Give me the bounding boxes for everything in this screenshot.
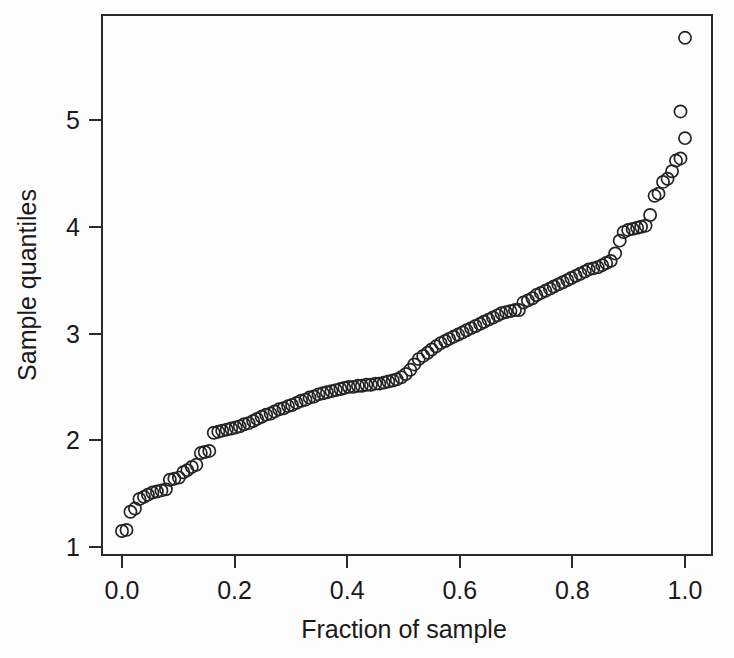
- y-tick-label: 5: [66, 106, 80, 134]
- y-tick-label: 1: [66, 533, 80, 561]
- x-tick-label: 1.0: [668, 576, 703, 604]
- y-tick-label: 3: [66, 320, 80, 348]
- plot-box-border: [102, 15, 712, 555]
- data-point-marker: [679, 32, 691, 44]
- data-points-layer: [116, 32, 691, 537]
- y-tick-label: 2: [66, 426, 80, 454]
- x-axis-title: Fraction of sample: [301, 615, 507, 643]
- y-tick-label: 4: [66, 213, 80, 241]
- data-point-marker: [652, 188, 664, 200]
- data-point-marker: [674, 105, 686, 117]
- x-tick-label: 0.2: [217, 576, 252, 604]
- data-point-marker: [190, 459, 202, 471]
- x-axis-ticks: 0.00.20.40.60.81.0: [105, 555, 703, 604]
- x-tick-label: 0.6: [442, 576, 477, 604]
- data-point-marker: [679, 132, 691, 144]
- plot-canvas: 0.00.20.40.60.81.0 12345 Fraction of sam…: [0, 0, 734, 658]
- plot-frame: [102, 15, 712, 555]
- x-tick-label: 0.4: [330, 576, 365, 604]
- quantile-plot-figure: 0.00.20.40.60.81.0 12345 Fraction of sam…: [0, 0, 734, 658]
- y-axis-title: Sample quantiles: [13, 189, 41, 381]
- data-point-marker: [644, 209, 656, 221]
- data-point-marker: [674, 152, 686, 164]
- x-tick-label: 0.0: [105, 576, 140, 604]
- x-tick-label: 0.8: [555, 576, 590, 604]
- y-axis-ticks: 12345: [66, 106, 102, 561]
